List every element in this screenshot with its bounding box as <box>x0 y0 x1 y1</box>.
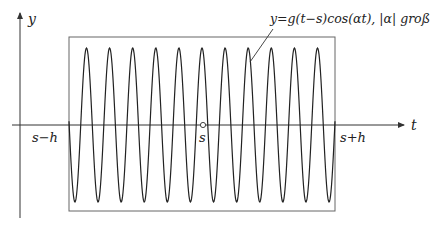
t-axis-label: t <box>411 117 417 133</box>
curve-annotation: y=g(t−s)cos(αt), |α| groß <box>269 11 430 26</box>
y-axis-label: y <box>27 11 37 27</box>
tick-label-left: s−h <box>32 130 58 145</box>
tick-label-center: s <box>199 130 206 145</box>
center-point-marker <box>200 122 205 127</box>
diagram-canvas: y t s−h s s+h y=g(t−s)cos(αt), |α| groß <box>0 0 435 231</box>
tick-label-right: s+h <box>340 130 366 145</box>
